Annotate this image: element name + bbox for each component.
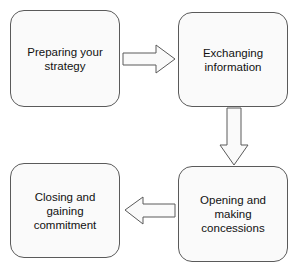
step-label-line: strategy <box>27 59 102 73</box>
step-label-line: gaining <box>34 204 97 218</box>
step-exchanging-information: Exchanging information <box>178 12 288 107</box>
step-opening-concessions: Opening and making concessions <box>178 166 288 262</box>
step-closing-commitment: Closing and gaining commitment <box>10 163 120 258</box>
step-preparing-strategy: Preparing your strategy <box>10 10 120 107</box>
step-label-line: Exchanging <box>203 46 263 60</box>
step-label-line: Opening and <box>200 193 266 207</box>
arrow-down-icon <box>219 107 249 167</box>
arrow-left-icon <box>123 196 177 226</box>
step-label-line: commitment <box>34 218 97 232</box>
step-label-line: making <box>200 207 266 221</box>
step-label-line: concessions <box>200 221 266 235</box>
step-label-line: Closing and <box>34 190 97 204</box>
step-label-line: Preparing your <box>27 45 102 59</box>
arrow-right-icon <box>122 43 178 75</box>
step-label-line: information <box>203 60 263 74</box>
